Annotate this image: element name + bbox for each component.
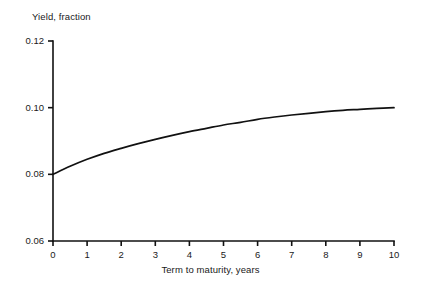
y-tick-label: 0.12 — [10, 36, 44, 46]
yield-curve-chart: Yield, fraction 0.060.080.100.12 0123456… — [0, 0, 421, 287]
x-tick-label: 5 — [214, 250, 234, 260]
x-tick-label: 6 — [248, 250, 268, 260]
x-tick-label: 8 — [316, 250, 336, 260]
data-series-line — [53, 108, 394, 175]
x-tick-label: 1 — [77, 250, 97, 260]
x-tick-label: 10 — [384, 250, 404, 260]
plot-canvas — [0, 0, 421, 287]
x-tick-label: 7 — [282, 250, 302, 260]
series-group — [53, 108, 394, 175]
x-tick-label: 4 — [179, 250, 199, 260]
x-axis-title: Term to maturity, years — [0, 264, 421, 275]
x-tick-label: 2 — [111, 250, 131, 260]
y-tick-label: 0.06 — [10, 236, 44, 246]
axes-group — [48, 41, 394, 246]
y-tick-label: 0.08 — [10, 169, 44, 179]
x-tick-label: 9 — [350, 250, 370, 260]
x-tick-label: 0 — [43, 250, 63, 260]
x-tick-label: 3 — [145, 250, 165, 260]
y-tick-label: 0.10 — [10, 103, 44, 113]
